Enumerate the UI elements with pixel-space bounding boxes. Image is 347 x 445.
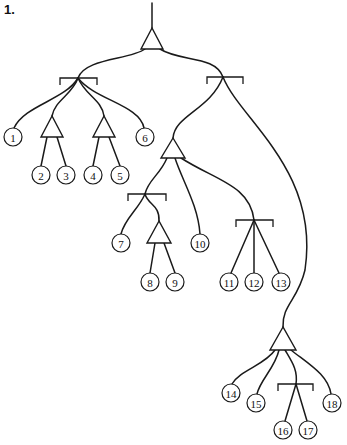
leaf-node-1: 1 [4,128,22,146]
tree-edge [109,137,120,166]
svg-text:8: 8 [147,277,153,289]
tree-edge [231,220,254,273]
leaf-node-17: 17 [299,421,317,439]
leaf-node-18: 18 [323,394,341,412]
tri-4-5-triangle-node [93,116,115,137]
leaf-node-12: 12 [245,273,263,291]
svg-text:14: 14 [226,388,238,400]
leaf-node-9: 9 [166,273,184,291]
leaf-node-7: 7 [112,234,130,252]
tree-edge [57,137,66,166]
svg-text:6: 6 [142,132,148,144]
tree-edge [175,158,200,234]
svg-text:13: 13 [276,277,288,289]
tree-edge [285,384,296,421]
tree-edge [78,78,144,128]
svg-text:2: 2 [38,170,44,182]
tri-mid-triangle-node [161,138,185,158]
tree-edge [160,49,223,77]
leaf-node-4: 4 [84,166,102,184]
leaf-node-3: 3 [57,166,75,184]
svg-text:7: 7 [118,238,124,250]
svg-text:10: 10 [195,238,207,250]
tri-bottom-triangle-node [270,327,296,350]
leaf-node-16: 16 [274,421,292,439]
tree-edge [232,350,275,384]
tree-edge [78,49,145,78]
tree-edge [285,350,296,384]
tree-edge [145,158,167,194]
tri-2-3-triangle-node [41,116,63,137]
tree-edges [14,3,331,421]
root-triangle-node [141,28,163,49]
tree-edge [181,158,254,220]
leaf-node-11: 11 [220,273,238,291]
leaf-node-14: 14 [222,384,240,402]
tree-edge [164,243,175,273]
svg-text:5: 5 [117,170,123,182]
tree-edge [173,77,223,138]
tree-edge [121,194,145,234]
svg-text:12: 12 [249,277,260,289]
tree-edge [223,77,307,327]
tree-edge [93,137,99,166]
svg-text:15: 15 [251,398,263,410]
leaf-node-2: 2 [32,166,50,184]
tree-edge [14,78,78,128]
tri-8-9-triangle-node [147,221,171,243]
svg-text:16: 16 [278,425,290,437]
tree-edge [254,220,279,273]
tree-edge [41,137,47,166]
svg-text:1: 1 [10,132,16,144]
svg-text:3: 3 [63,170,69,182]
leaf-node-10: 10 [191,234,209,252]
svg-text:4: 4 [90,170,96,182]
tree-leaves: 123456789101112131415161718 [4,128,341,439]
tree-edge [78,78,104,116]
leaf-node-6: 6 [136,128,154,146]
tree-edge [145,194,159,221]
leaf-node-15: 15 [247,394,265,412]
tree-diagram: 123456789101112131415161718 [0,0,347,445]
leaf-node-13: 13 [272,273,290,291]
tree-edge [296,384,307,421]
leaf-node-5: 5 [111,166,129,184]
svg-text:17: 17 [303,425,315,437]
svg-text:11: 11 [224,277,235,289]
svg-text:9: 9 [172,277,178,289]
leaf-node-8: 8 [141,273,159,291]
tree-edge [150,243,155,273]
svg-text:18: 18 [327,398,339,410]
